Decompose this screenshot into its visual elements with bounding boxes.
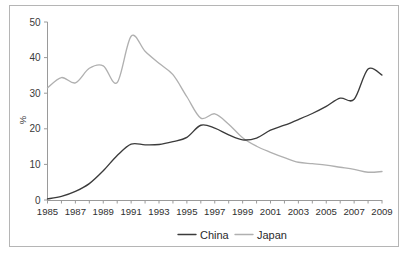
x-tick-label: 1999: [232, 206, 253, 217]
y-axis-ticks: [44, 22, 48, 200]
y-tick-label: 30: [29, 88, 41, 99]
x-tick-label: 1997: [204, 206, 225, 217]
series-japan: [48, 35, 383, 172]
x-tick-label: 1985: [37, 206, 58, 217]
x-tick-label: 1991: [120, 206, 141, 217]
china-line: [48, 68, 383, 199]
y-tick-label: 20: [29, 123, 41, 134]
y-tick-label: 10: [29, 159, 41, 170]
x-tick-label: 1993: [148, 206, 169, 217]
legend-label-japan: Japan: [257, 229, 287, 241]
x-tick-label: 1995: [176, 206, 197, 217]
y-tick-label: 0: [35, 195, 41, 206]
x-tick-label: 2005: [316, 206, 337, 217]
x-tick-label: 1987: [65, 206, 86, 217]
y-tick-label: 40: [29, 52, 41, 63]
legend: China Japan: [178, 229, 287, 241]
x-tick-label: 2001: [260, 206, 281, 217]
line-chart: 01020304050 1985198719891991199319951997…: [0, 0, 410, 261]
y-axis-title: %: [17, 115, 28, 124]
japan-line: [48, 35, 383, 172]
series-china: [48, 68, 383, 199]
y-tick-label: 50: [29, 17, 41, 28]
x-tick-label: 2007: [343, 206, 364, 217]
x-axis-tick-labels: 1985198719891991199319951997199920012003…: [37, 206, 393, 217]
x-tick-label: 2009: [371, 206, 392, 217]
legend-label-china: China: [200, 229, 230, 241]
y-axis-tick-labels: 01020304050: [29, 17, 41, 206]
x-tick-label: 2003: [288, 206, 309, 217]
figure-container: 01020304050 1985198719891991199319951997…: [0, 0, 410, 261]
x-tick-label: 1989: [93, 206, 114, 217]
